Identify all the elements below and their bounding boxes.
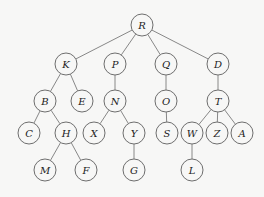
node-label: A xyxy=(237,128,245,139)
node-label: K xyxy=(61,59,70,70)
node-label: H xyxy=(61,128,71,139)
node-label: E xyxy=(77,96,86,107)
tree-node-p: P xyxy=(104,53,126,75)
tree-node-a: A xyxy=(231,122,253,144)
node-label: G xyxy=(130,165,138,176)
tree-node-y: Y xyxy=(123,122,145,144)
node-label: L xyxy=(188,165,196,176)
edge-k-b xyxy=(50,74,60,92)
tree-node-h: H xyxy=(55,122,77,144)
node-label: W xyxy=(187,128,198,139)
node-label: R xyxy=(137,20,146,31)
tree-node-t: T xyxy=(207,90,229,112)
node-label: F xyxy=(82,165,91,176)
edge-t-w xyxy=(199,110,211,125)
edge-r-p xyxy=(121,34,135,55)
tree-node-x: X xyxy=(83,122,105,144)
tree-node-m: M xyxy=(34,159,56,181)
edge-h-m xyxy=(50,143,60,161)
edge-r-q xyxy=(148,34,160,54)
tree-diagram: RKPQDBENOTCHXYSWZAMFGL xyxy=(0,0,264,197)
edge-n-y xyxy=(121,110,129,123)
tree-node-f: F xyxy=(75,159,97,181)
node-label: C xyxy=(25,128,33,139)
tree-node-g: G xyxy=(123,159,145,181)
tree-node-l: L xyxy=(181,159,203,181)
tree-node-q: Q xyxy=(155,53,177,75)
node-label: B xyxy=(40,96,48,107)
node-label: P xyxy=(111,59,119,70)
node-label: D xyxy=(213,59,222,70)
edge-k-e xyxy=(70,74,77,91)
node-label: N xyxy=(110,96,121,107)
edge-b-h xyxy=(51,110,60,124)
node-label: Q xyxy=(162,59,170,70)
tree-node-o: O xyxy=(155,90,177,112)
node-label: M xyxy=(39,165,51,176)
tree-node-s: S xyxy=(156,122,178,144)
tree-node-r: R xyxy=(131,14,153,36)
tree-node-d: D xyxy=(207,53,229,75)
edge-b-c xyxy=(34,111,40,123)
tree-node-c: C xyxy=(18,122,40,144)
edge-h-f xyxy=(71,143,81,161)
edge-r-k xyxy=(76,30,132,59)
tree-node-w: W xyxy=(181,122,203,144)
node-label: S xyxy=(164,128,171,139)
edge-n-x xyxy=(100,110,109,124)
node-label: O xyxy=(162,96,170,107)
edge-t-a xyxy=(225,110,236,124)
node-label: X xyxy=(89,128,98,139)
node-label: Z xyxy=(213,128,222,139)
tree-node-b: B xyxy=(34,90,56,112)
tree-node-k: K xyxy=(55,53,77,75)
tree-node-e: E xyxy=(71,90,93,112)
tree-node-z: Z xyxy=(206,122,228,144)
tree-node-n: N xyxy=(104,90,126,112)
